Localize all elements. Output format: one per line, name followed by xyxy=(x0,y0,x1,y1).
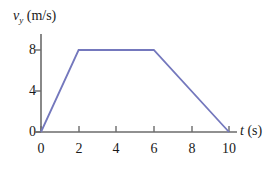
plot-area xyxy=(0,0,278,171)
data-series-line xyxy=(41,50,229,132)
velocity-time-chart: vy (m/s) t (s) 0 4 8 0 2 4 6 8 10 xyxy=(0,0,278,171)
y-axis-ticks xyxy=(35,50,41,132)
x-axis-ticks xyxy=(41,126,229,132)
